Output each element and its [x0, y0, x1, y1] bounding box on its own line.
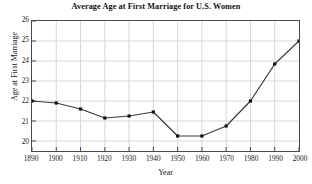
x-axis-tick-label: 1990	[268, 155, 283, 162]
x-axis-tick-label: 1890	[24, 155, 39, 162]
x-axis-tick-label: 1930	[122, 155, 137, 162]
x-axis-tick-label: 1950	[170, 155, 185, 162]
x-axis-title: Year	[31, 168, 300, 177]
chart-title: Average Age at First Marriage for U.S. W…	[0, 2, 312, 11]
data-point-marker	[297, 39, 299, 42]
y-axis-tick-label: 21	[3, 118, 29, 125]
data-point-marker	[32, 99, 34, 102]
y-axis-tick-label: 20	[3, 138, 29, 145]
series-polyline	[32, 41, 299, 136]
x-axis-tick-label: 1980	[244, 155, 259, 162]
x-axis-tick-label: 1900	[48, 155, 63, 162]
x-axis-tick-label: 1910	[73, 155, 88, 162]
x-axis-tick-label: 1970	[219, 155, 234, 162]
data-point-marker	[128, 114, 131, 117]
data-point-marker	[103, 116, 106, 119]
data-point-marker	[55, 101, 58, 104]
chart-figure: Average Age at First Marriage for U.S. W…	[0, 0, 312, 184]
x-axis-tick-label: 1920	[97, 155, 112, 162]
x-axis-tick-label: 1960	[195, 155, 210, 162]
data-series-line	[32, 21, 299, 151]
plot-area	[31, 20, 300, 152]
data-point-marker	[79, 107, 82, 110]
data-point-marker	[176, 134, 179, 137]
data-point-marker	[225, 124, 228, 127]
x-axis-tick-labels: 1890190019101920193019401950196019701980…	[31, 155, 300, 167]
data-point-marker	[249, 99, 252, 102]
data-point-marker	[200, 134, 203, 137]
data-point-marker	[152, 110, 155, 113]
x-axis-tick-label: 2000	[293, 155, 308, 162]
data-point-marker	[273, 62, 276, 65]
x-axis-tick-label: 1940	[146, 155, 161, 162]
y-axis-title: Age at First Marriage	[10, 17, 19, 117]
